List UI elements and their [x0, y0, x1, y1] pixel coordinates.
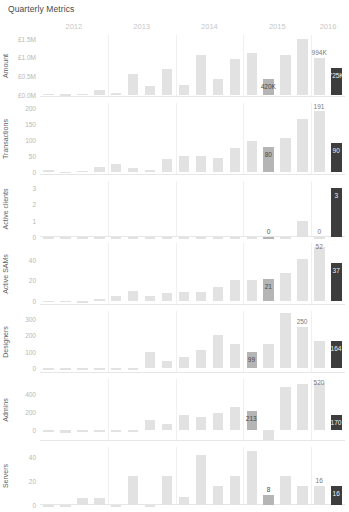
- bar[interactable]: [314, 58, 325, 95]
- bar[interactable]: [230, 59, 241, 95]
- bar[interactable]: [213, 486, 224, 505]
- bar[interactable]: [179, 357, 190, 368]
- bar[interactable]: [179, 237, 190, 239]
- bar[interactable]: [280, 476, 291, 505]
- bar[interactable]: [77, 237, 88, 239]
- bar[interactable]: [43, 94, 54, 96]
- bar[interactable]: [145, 296, 156, 301]
- bar[interactable]: [213, 287, 224, 300]
- bar[interactable]: [145, 86, 156, 95]
- bar[interactable]: [94, 498, 105, 505]
- bar[interactable]: [247, 237, 258, 239]
- bar[interactable]: [297, 327, 308, 368]
- bar[interactable]: [314, 237, 325, 239]
- bar[interactable]: [297, 259, 308, 301]
- bar[interactable]: [162, 476, 173, 505]
- bar[interactable]: [230, 344, 241, 368]
- bar[interactable]: [43, 430, 54, 432]
- bar[interactable]: [43, 170, 54, 173]
- bar[interactable]: [230, 407, 241, 430]
- bar[interactable]: [43, 505, 54, 507]
- bar[interactable]: [77, 430, 88, 432]
- bar[interactable]: [145, 237, 156, 239]
- bar[interactable]: [179, 156, 190, 172]
- bar[interactable]: [297, 384, 308, 430]
- bar[interactable]: [314, 247, 325, 301]
- bar[interactable]: [60, 368, 71, 370]
- bar[interactable]: [128, 74, 139, 95]
- bar[interactable]: [77, 171, 88, 173]
- bar[interactable]: [263, 430, 274, 440]
- bar[interactable]: [196, 350, 207, 368]
- bar[interactable]: [94, 237, 105, 239]
- bar[interactable]: [196, 455, 207, 505]
- bar[interactable]: [247, 141, 258, 173]
- bar[interactable]: [43, 237, 54, 239]
- bar[interactable]: [94, 368, 105, 370]
- bar[interactable]: [230, 148, 241, 172]
- bar[interactable]: [60, 94, 71, 96]
- bar[interactable]: [162, 237, 173, 239]
- bar[interactable]: [247, 280, 258, 301]
- bar[interactable]: [162, 159, 173, 172]
- bar[interactable]: [60, 237, 71, 239]
- bar[interactable]: [111, 237, 122, 239]
- bar[interactable]: [196, 237, 207, 239]
- bar[interactable]: [196, 55, 207, 95]
- bar[interactable]: [230, 280, 241, 301]
- bar[interactable]: [179, 415, 190, 430]
- bar[interactable]: [230, 237, 241, 239]
- bar[interactable]: [128, 237, 139, 239]
- bar[interactable]: [94, 430, 105, 432]
- bar[interactable]: [213, 158, 224, 173]
- bar[interactable]: [179, 85, 190, 95]
- bar[interactable]: [162, 293, 173, 301]
- bar[interactable]: [280, 273, 291, 301]
- bar[interactable]: [60, 301, 71, 303]
- bar[interactable]: [314, 486, 325, 505]
- bar[interactable]: [230, 476, 241, 505]
- bar[interactable]: [247, 451, 258, 505]
- bar[interactable]: [111, 93, 122, 95]
- bar[interactable]: [162, 69, 173, 95]
- bar[interactable]: [280, 138, 291, 173]
- bar[interactable]: [94, 299, 105, 301]
- bar[interactable]: [60, 172, 71, 174]
- bar[interactable]: [297, 39, 308, 94]
- bar[interactable]: [162, 424, 173, 430]
- bar[interactable]: [145, 505, 156, 507]
- bar[interactable]: [111, 505, 122, 507]
- bar[interactable]: [280, 237, 291, 239]
- bar[interactable]: [280, 313, 291, 368]
- bar[interactable]: [162, 361, 173, 368]
- bar[interactable]: [111, 430, 122, 432]
- bar[interactable]: [314, 341, 325, 368]
- bar[interactable]: [280, 55, 291, 95]
- bar[interactable]: [179, 497, 190, 505]
- bar[interactable]: [297, 221, 308, 237]
- bar[interactable]: [77, 498, 88, 505]
- bar[interactable]: [111, 368, 122, 370]
- bar[interactable]: [213, 413, 224, 430]
- bar[interactable]: [263, 495, 274, 505]
- bar[interactable]: [213, 335, 224, 368]
- bar[interactable]: [94, 167, 105, 173]
- bar[interactable]: [128, 368, 139, 370]
- bar[interactable]: [196, 417, 207, 430]
- bar[interactable]: [60, 505, 71, 507]
- bar[interactable]: [314, 111, 325, 173]
- bar[interactable]: [179, 292, 190, 301]
- bar[interactable]: [145, 170, 156, 172]
- bar[interactable]: [128, 168, 139, 172]
- bar[interactable]: [60, 430, 71, 433]
- bar[interactable]: [43, 368, 54, 370]
- bar[interactable]: [94, 90, 105, 95]
- bar[interactable]: [196, 156, 207, 172]
- bar[interactable]: [297, 486, 308, 505]
- bar[interactable]: [111, 296, 122, 301]
- bar[interactable]: [314, 383, 325, 430]
- bar[interactable]: [128, 476, 139, 505]
- bar[interactable]: [196, 292, 207, 301]
- bar[interactable]: [128, 291, 139, 301]
- bar[interactable]: [128, 430, 139, 432]
